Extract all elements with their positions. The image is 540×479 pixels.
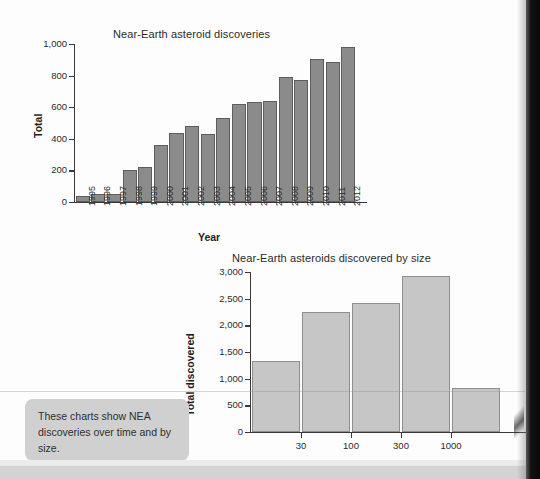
x-axis-tick-label: 300: [387, 440, 415, 451]
x-axis-tick-label: 2011: [337, 187, 347, 206]
y-axis-tick-label: 0: [199, 426, 243, 437]
x-axis-tick-label: 2002: [196, 186, 206, 206]
x-axis-tick: [401, 432, 402, 438]
plot-area: 05001,0001,5002,0002,5003,000 3010030010…: [251, 272, 501, 432]
x-axis-tick-label: 2007: [274, 186, 284, 206]
scan-corner-mark: [514, 398, 524, 444]
y-axis-tick-label: 2,500: [199, 293, 243, 304]
bar: [302, 312, 350, 432]
x-axis-tick: [451, 432, 452, 438]
bar: [326, 62, 340, 202]
chart-title: Near-Earth asteroid discoveries: [113, 28, 270, 40]
x-axis-tick-label: 30: [287, 440, 315, 451]
x-axis-tick-label: 1997: [118, 186, 128, 206]
x-axis-tick-label: 100: [337, 440, 365, 451]
x-axis-tick-label: 1000: [437, 440, 465, 451]
x-axis-tick: [301, 432, 302, 438]
scan-gutter: [526, 0, 540, 479]
x-axis-tick: [351, 432, 352, 438]
bar-series: [251, 272, 501, 432]
y-axis-tick-label: 1,500: [199, 346, 243, 357]
bar: [310, 59, 324, 202]
bar: [352, 303, 400, 432]
x-axis-tick-label: 2008: [290, 186, 300, 206]
chart-discovered-by-size: Near-Earth asteroids discovered by size …: [170, 248, 540, 479]
y-axis-tick-label: 3,000: [199, 266, 243, 277]
bar: [452, 388, 500, 432]
scan-streak: [0, 391, 525, 392]
bar: [279, 77, 293, 202]
caption-callout: These charts show NEA discoveries over t…: [25, 399, 189, 461]
bar: [402, 276, 450, 432]
x-axis-tick-label: 1998: [134, 186, 144, 206]
bar: [341, 47, 355, 202]
y-axis-tick-label: 400: [23, 133, 67, 144]
y-axis-tick-label: 2,000: [199, 319, 243, 330]
plot-area: 02004006008001,000 199519961997199819992…: [75, 44, 356, 202]
x-axis-tick-label: 2009: [305, 186, 315, 206]
x-axis-tick-label: 2000: [165, 186, 175, 206]
bar: [252, 361, 300, 432]
scanned-page: Near-Earth asteroid discoveries Total Ye…: [0, 0, 540, 479]
caption-text: These charts show NEA discoveries over t…: [38, 408, 176, 456]
y-axis-tick-label: 500: [199, 399, 243, 410]
scan-bottom-band: [0, 465, 540, 479]
x-axis-tick-label: 2001: [180, 186, 190, 206]
x-axis-tick-label: 2012: [352, 186, 362, 206]
y-axis-tick-label: 1,000: [199, 373, 243, 384]
y-axis-tick-label: 800: [23, 70, 67, 81]
chart-discoveries-over-time: Near-Earth asteroid discoveries Total Ye…: [0, 0, 400, 250]
bar-series: [75, 44, 356, 202]
chart-title: Near-Earth asteroids discovered by size: [232, 252, 431, 264]
x-axis-tick-label: 1999: [149, 186, 159, 206]
x-axis-tick-label: 2004: [227, 186, 237, 206]
x-axis-tick-label: 2003: [212, 186, 222, 206]
x-axis-tick-label: 2010: [321, 186, 331, 206]
x-axis-tick-label: 1996: [102, 186, 112, 206]
x-axis-tick-label: 2005: [243, 186, 253, 206]
bar: [294, 80, 308, 202]
y-axis-tick-label: 0: [23, 196, 67, 207]
y-axis-tick-label: 1,000: [23, 38, 67, 49]
y-axis-tick-label: 200: [23, 164, 67, 175]
y-axis-tick-label: 600: [23, 101, 67, 112]
x-axis-tick-label: 1995: [87, 186, 97, 206]
x-axis-tick-label: 2006: [259, 186, 269, 206]
x-axis-tick-labels: 1995199619971998199920002001200220032004…: [75, 202, 356, 242]
